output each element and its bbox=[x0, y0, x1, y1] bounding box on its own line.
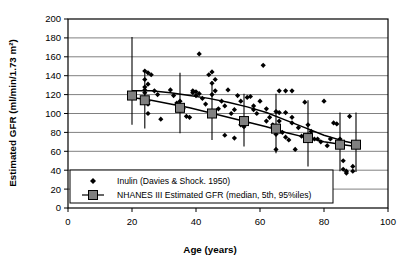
nhanes-median-marker bbox=[304, 134, 313, 143]
y-tick-label: 0 bbox=[56, 202, 61, 213]
legend-label: Inulin (Davies & Shock. 1950) bbox=[117, 176, 230, 186]
legend: Inulin (Davies & Shock. 1950)NHANES III … bbox=[70, 170, 333, 203]
legend-label: NHANES III Estimated GFR (median, 5th, 9… bbox=[117, 190, 312, 200]
x-tick-label: 80 bbox=[319, 216, 330, 227]
nhanes-median-marker bbox=[176, 103, 185, 112]
y-tick-label: 100 bbox=[45, 108, 61, 119]
y-tick-label: 200 bbox=[45, 13, 61, 24]
y-tick-label: 40 bbox=[50, 165, 61, 176]
x-tick-label: 40 bbox=[191, 216, 202, 227]
y-tick-label: 160 bbox=[45, 51, 61, 62]
y-axis-title: Estimated GFR (ml/min/1.73 m²) bbox=[7, 39, 18, 187]
x-tick-label: 100 bbox=[380, 216, 396, 227]
x-axis-title: Age (years) bbox=[183, 244, 236, 255]
legend-square-icon bbox=[89, 191, 98, 200]
y-tick-label: 120 bbox=[45, 89, 61, 100]
y-tick-label: 60 bbox=[50, 146, 61, 157]
y-tick-label: 80 bbox=[50, 127, 61, 138]
nhanes-median-marker bbox=[208, 109, 217, 118]
y-tick-label: 140 bbox=[45, 70, 61, 81]
nhanes-median-marker bbox=[352, 140, 361, 149]
y-tick-label: 20 bbox=[50, 184, 61, 195]
y-tick-label: 180 bbox=[45, 32, 61, 43]
chart-container: 020406080100120140160180200 020406080100… bbox=[0, 0, 410, 265]
nhanes-median-marker bbox=[128, 91, 137, 100]
gfr-age-scatter-chart: 020406080100120140160180200 020406080100… bbox=[0, 0, 410, 265]
x-tick-label: 0 bbox=[65, 216, 70, 227]
x-tick-label: 60 bbox=[255, 216, 266, 227]
nhanes-median-marker bbox=[240, 117, 249, 126]
x-tick-label: 20 bbox=[127, 216, 138, 227]
nhanes-median-marker bbox=[272, 124, 281, 133]
nhanes-median-marker bbox=[336, 140, 345, 149]
nhanes-median-marker bbox=[140, 96, 149, 105]
